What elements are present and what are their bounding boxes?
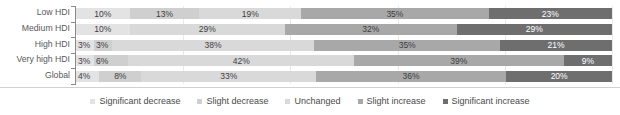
bar-row: 3%6%42%39%9% — [76, 55, 612, 66]
bar-segment: 23% — [489, 8, 612, 19]
legend-item[interactable]: Slight decrease — [197, 96, 268, 106]
bar-segment: 38% — [112, 40, 314, 51]
legend-swatch-icon — [90, 99, 95, 104]
bar-segment: 35% — [301, 8, 489, 19]
bar-segment: 29% — [457, 24, 612, 35]
legend-item[interactable]: Slight increase — [358, 96, 426, 106]
bar-segment: 32% — [285, 24, 457, 35]
gridline — [612, 6, 613, 84]
bar-row: 10%29%32%29% — [76, 24, 612, 35]
bar-segment: 9% — [564, 55, 612, 66]
legend-label: Unchanged — [294, 96, 340, 106]
bar-rows: 10%13%19%35%23%10%29%32%29%3%3%38%35%21%… — [76, 6, 612, 84]
legend-swatch-icon — [358, 99, 363, 104]
bar-segment: 35% — [314, 40, 500, 51]
bar-row: 3%3%38%35%21% — [76, 40, 612, 51]
bar-segment: 20% — [506, 71, 612, 82]
category-label-very-high-hdi: Very high HDI — [0, 54, 70, 64]
bar-segment: 10% — [76, 24, 130, 35]
legend-label: Significant increase — [452, 96, 530, 106]
bar-row: 10%13%19%35%23% — [76, 8, 612, 19]
legend-label: Slight decrease — [206, 96, 268, 106]
legend-item[interactable]: Significant decrease — [90, 96, 180, 106]
legend-item[interactable]: Significant increase — [443, 96, 530, 106]
legend-label: Significant decrease — [99, 96, 180, 106]
category-label-high-hdi: High HDI — [0, 39, 70, 49]
bar-segment: 29% — [130, 24, 285, 35]
category-axis-labels: Low HDIMedium HDIHigh HDIVery high HDIGl… — [0, 6, 70, 84]
category-label-low-hdi: Low HDI — [0, 7, 70, 17]
bar-segment: 3% — [94, 40, 112, 51]
bar-segment: 3% — [76, 55, 94, 66]
axis-tick — [71, 84, 76, 85]
bar-segment: 3% — [76, 40, 94, 51]
bar-segment: 21% — [500, 40, 612, 51]
bar-segment: 36% — [316, 71, 506, 82]
bar-segment: 4% — [76, 71, 99, 82]
plot-area: 10%13%19%35%23%10%29%32%29%3%3%38%35%21%… — [76, 6, 612, 84]
bar-segment: 19% — [199, 8, 301, 19]
bar-row: 4%8%33%36%20% — [76, 71, 612, 82]
legend-swatch-icon — [285, 99, 290, 104]
bar-segment: 8% — [99, 71, 141, 82]
stacked-bar-chart: Low HDIMedium HDIHigh HDIVery high HDIGl… — [0, 0, 620, 115]
legend-label: Slight increase — [367, 96, 426, 106]
bar-segment: 10% — [76, 8, 130, 19]
chart-legend: Significant decreaseSlight decreaseUncha… — [0, 92, 620, 110]
bar-segment: 39% — [354, 55, 564, 66]
bar-segment: 42% — [128, 55, 354, 66]
legend-item[interactable]: Unchanged — [285, 96, 340, 106]
bar-segment: 33% — [141, 71, 315, 82]
category-label-medium-hdi: Medium HDI — [0, 23, 70, 33]
legend-swatch-icon — [197, 99, 202, 104]
category-label-global: Global — [0, 70, 70, 80]
legend-divider — [0, 87, 620, 88]
bar-segment: 6% — [94, 55, 128, 66]
legend-swatch-icon — [443, 99, 448, 104]
bar-segment: 13% — [130, 8, 200, 19]
